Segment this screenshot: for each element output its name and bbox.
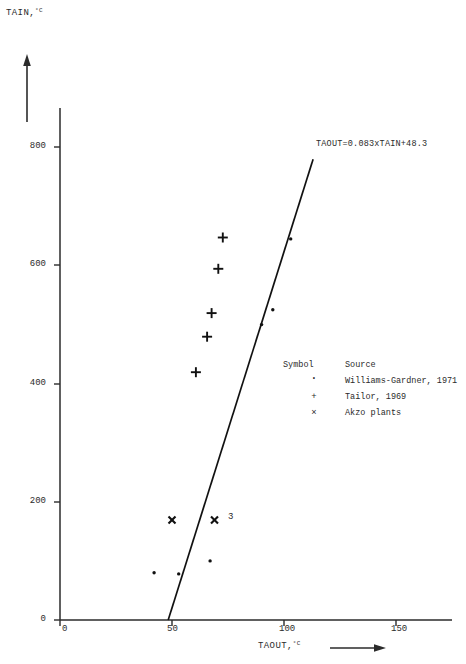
legend-marker-plus-icon: + xyxy=(283,389,345,405)
data-point xyxy=(152,571,155,574)
x-tick-label-150: 150 xyxy=(391,624,407,634)
legend-marker-dot-icon: · xyxy=(283,373,345,389)
data-point xyxy=(208,559,211,562)
series-akzo-points xyxy=(169,517,219,524)
point-count-annotation: 3 xyxy=(228,512,233,522)
legend-row: + Tailor, 1969 xyxy=(283,389,457,405)
series-tailor-points xyxy=(191,233,228,378)
x-axis-title-text: TAOUT, xyxy=(258,641,293,651)
series-williams-gardner-points xyxy=(152,237,292,575)
data-point xyxy=(202,332,212,342)
fit-line-equation-label: TAOUT=0.083xTAIN+48.3 xyxy=(316,139,427,149)
x-axis-title-unit: °C xyxy=(293,640,301,647)
data-point xyxy=(213,264,223,274)
data-point xyxy=(211,517,218,524)
y-tick-label-800: 800 xyxy=(12,141,46,151)
cross-marker-icon: × xyxy=(311,408,316,418)
legend-row: · Williams-Gardner, 1971 xyxy=(283,373,457,389)
y-axis-title: TAIN,°C xyxy=(6,8,43,18)
x-tick-label-50: 50 xyxy=(167,624,178,634)
data-point xyxy=(191,367,201,377)
y-tick-label-400: 400 xyxy=(12,378,46,388)
y-axis-ticks xyxy=(54,147,60,620)
x-axis-arrow xyxy=(330,644,386,652)
y-tick-label-0: 0 xyxy=(12,614,46,624)
y-axis-title-unit: °C xyxy=(35,7,43,14)
legend-header-source: Source xyxy=(345,357,457,373)
plus-marker-icon: + xyxy=(311,392,316,402)
y-axis-arrow xyxy=(23,54,31,122)
legend: Symbol Source · Williams-Gardner, 1971 +… xyxy=(283,357,457,421)
data-point xyxy=(218,233,228,243)
x-axis-ticks xyxy=(60,620,396,626)
dot-marker-icon: · xyxy=(310,371,318,386)
data-point xyxy=(177,572,180,575)
data-point xyxy=(289,237,292,240)
x-axis-title: TAOUT,°C xyxy=(258,641,301,651)
x-tick-label-0: 0 xyxy=(62,624,67,634)
legend-row: × Akzo plants xyxy=(283,405,457,421)
chart-figure: TAIN,°C TAOUT,°C 0 200 400 600 800 0 50 … xyxy=(0,0,466,664)
y-tick-label-600: 600 xyxy=(12,259,46,269)
legend-source-label: Tailor, 1969 xyxy=(345,389,457,405)
data-point xyxy=(207,308,217,318)
legend-marker-cross-icon: × xyxy=(283,405,345,421)
data-point xyxy=(260,323,263,326)
data-point xyxy=(271,308,274,311)
legend-source-label: Williams-Gardner, 1971 xyxy=(345,373,457,389)
x-tick-label-100: 100 xyxy=(279,624,295,634)
legend-source-label: Akzo plants xyxy=(345,405,457,421)
scatter-plot-canvas xyxy=(0,0,466,664)
data-point xyxy=(169,517,176,524)
y-tick-label-200: 200 xyxy=(12,496,46,506)
y-axis-title-text: TAIN, xyxy=(6,8,35,18)
